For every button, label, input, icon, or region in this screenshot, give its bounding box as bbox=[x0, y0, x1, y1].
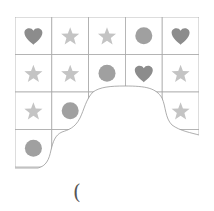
answer-bracket: ( bbox=[73, 180, 81, 204]
shape-grid bbox=[15, 17, 199, 167]
circle-icon bbox=[99, 65, 116, 82]
puzzle-figure bbox=[0, 0, 214, 211]
circle-icon bbox=[25, 140, 42, 157]
circle-icon bbox=[135, 27, 152, 44]
grid-cell bbox=[125, 130, 162, 168]
grid-cell bbox=[89, 92, 126, 130]
grid-cell bbox=[89, 130, 126, 168]
circle-icon bbox=[62, 102, 79, 119]
grid-cell bbox=[162, 130, 199, 168]
grid-cell bbox=[125, 92, 162, 130]
